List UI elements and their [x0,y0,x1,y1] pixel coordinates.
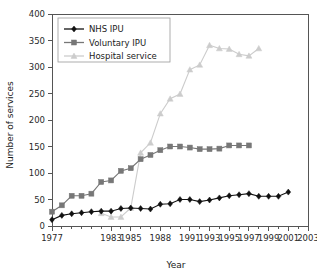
data-point [99,180,104,185]
y-axis-ticks: 050100150200250300350400 [29,9,52,231]
x-tick-label: 1993 [199,233,221,243]
x-tick-label: 1977 [41,233,63,243]
data-point [69,211,74,217]
data-point [187,145,192,150]
data-point [286,189,291,195]
data-point [178,197,183,203]
data-point [50,209,55,214]
data-point [187,197,192,203]
data-point [197,199,202,205]
data-point [217,195,222,201]
x-axis-title: Year [165,260,185,270]
data-point [237,192,242,198]
data-series-layer [50,42,291,222]
data-point [147,140,153,145]
chart-figure: 050100150200250300350400 197719831985198… [0,0,317,273]
data-point [237,143,242,148]
data-point [168,201,173,207]
y-tick-label: 100 [29,168,45,178]
data-point [256,193,261,199]
data-point [138,157,143,162]
data-point [148,206,153,212]
data-point [276,193,281,199]
chart-legend: NHS IPUVoluntary IPUHospital service [58,18,170,62]
data-point [178,144,183,149]
x-tick-label: 1988 [149,233,171,243]
data-point [247,191,252,197]
y-tick-label: 300 [29,62,45,72]
y-tick-label: 0 [40,221,45,231]
y-axis-title: Number of services [5,81,15,169]
data-point [89,191,94,196]
data-point [138,206,143,212]
legend-label: NHS IPU [89,24,124,34]
x-tick-label: 2003 [297,233,317,243]
data-point [187,67,193,72]
y-tick-label: 200 [29,115,45,125]
data-point [69,193,74,198]
data-point [59,203,64,208]
x-tick-label: 1991 [179,233,201,243]
x-tick-label: 1985 [120,233,142,243]
legend-label: Hospital service [89,51,157,61]
series-nhs-ipu [50,189,291,223]
data-point [109,178,114,183]
data-point [266,193,271,199]
data-point [158,148,163,153]
x-tick-label: 1997 [238,233,260,243]
data-point [158,201,163,207]
line-chart: 050100150200250300350400 197719831985198… [0,0,317,273]
data-point [109,208,114,214]
data-point [197,62,203,67]
series-line [101,45,259,217]
y-tick-label: 250 [29,89,45,99]
data-point [50,217,55,223]
data-point [59,212,64,218]
x-tick-label: 1999 [258,233,280,243]
data-point [79,193,84,198]
y-tick-label: 50 [34,195,45,205]
data-point [207,197,212,203]
data-point [119,206,124,212]
x-tick-label: 1983 [100,233,122,243]
data-point [167,96,173,101]
data-point [207,147,212,152]
data-point [89,209,94,215]
data-point [217,146,222,151]
data-point [128,166,133,171]
data-point [168,144,173,149]
series-hospital-service [98,42,262,219]
data-point [246,143,251,148]
series-voluntary-ipu [50,143,252,214]
data-point [118,168,123,173]
x-tick-label: 2001 [277,233,299,243]
y-tick-label: 150 [29,142,45,152]
data-point [227,143,232,148]
y-tick-label: 400 [29,9,45,19]
legend-label: Voluntary IPU [89,38,146,48]
x-axis-ticks: 1977198319851988199119931995199719992001… [41,226,317,243]
data-point [148,152,153,157]
data-point [79,210,84,216]
x-tick-label: 1995 [218,233,240,243]
data-point [177,91,183,96]
data-point [207,42,213,47]
data-point [256,45,262,50]
y-tick-label: 350 [29,36,45,46]
data-point [197,147,202,152]
data-point [227,193,232,199]
legend-marker-square-icon [72,40,77,45]
data-point [236,51,242,56]
